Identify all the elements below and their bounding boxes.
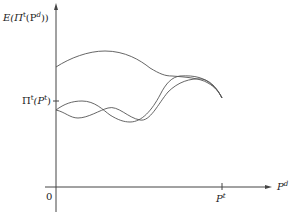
origin-label: 0 <box>46 191 52 202</box>
curve-3 <box>56 79 222 120</box>
curve-2 <box>56 76 222 122</box>
y-axis-arrow-icon <box>54 3 58 10</box>
x-axis-arrow-icon <box>265 185 272 189</box>
y-tick-label: Πt(Pt) <box>22 94 51 106</box>
chart: E(Πt(Pd)) Πt(Pt) 0 Pt Pd <box>0 0 299 217</box>
curve-1 <box>56 51 222 98</box>
y-axis-label: E(Πt(Pd)) <box>2 11 49 23</box>
x-axis-label: Pd <box>276 180 289 192</box>
x-tick-label: Pt <box>215 192 226 204</box>
